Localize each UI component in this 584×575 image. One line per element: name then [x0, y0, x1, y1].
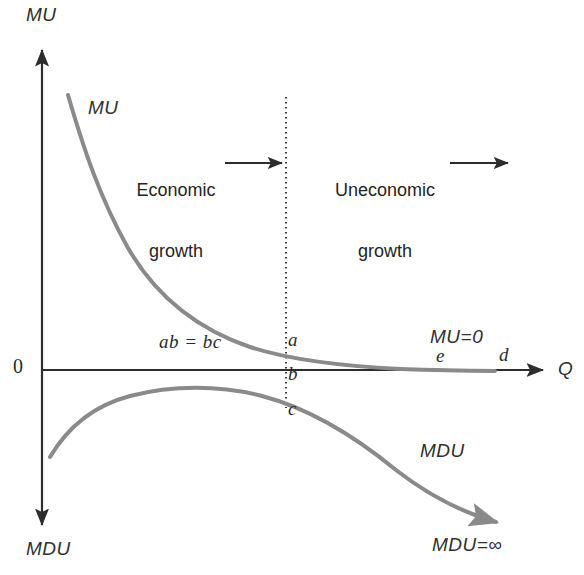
mu-curve-label: MU [88, 97, 119, 118]
point-label-c: c [288, 398, 296, 419]
origin-label: 0 [13, 355, 23, 377]
uneconomic-growth-line1: Uneconomic [325, 180, 445, 200]
y-axis-top-label: MU [26, 4, 57, 25]
point-label-e: e [436, 345, 444, 366]
x-axis-label: Q [558, 358, 573, 379]
economic-growth-annotation: Economic growth [128, 140, 224, 301]
equality-annotation: ab = bc [159, 331, 222, 352]
point-label-b: b [288, 363, 298, 384]
economic-growth-line1: Economic [128, 180, 224, 200]
diagram-canvas [0, 0, 584, 575]
economic-growth-line2: growth [128, 241, 224, 261]
point-label-a: a [288, 329, 298, 350]
mdu-curve-label: MDU [420, 440, 465, 461]
point-label-d: d [499, 344, 509, 365]
uneconomic-growth-annotation: Uneconomic growth [325, 140, 445, 301]
uneconomic-growth-line2: growth [325, 241, 445, 261]
economics-diagram: MU MDU Q 0 MU MDU Economic growth Unecon… [0, 0, 584, 575]
y-axis-bottom-label: MDU [26, 538, 71, 559]
mdu-infinity-annotation: MDU=∞ [432, 534, 502, 555]
